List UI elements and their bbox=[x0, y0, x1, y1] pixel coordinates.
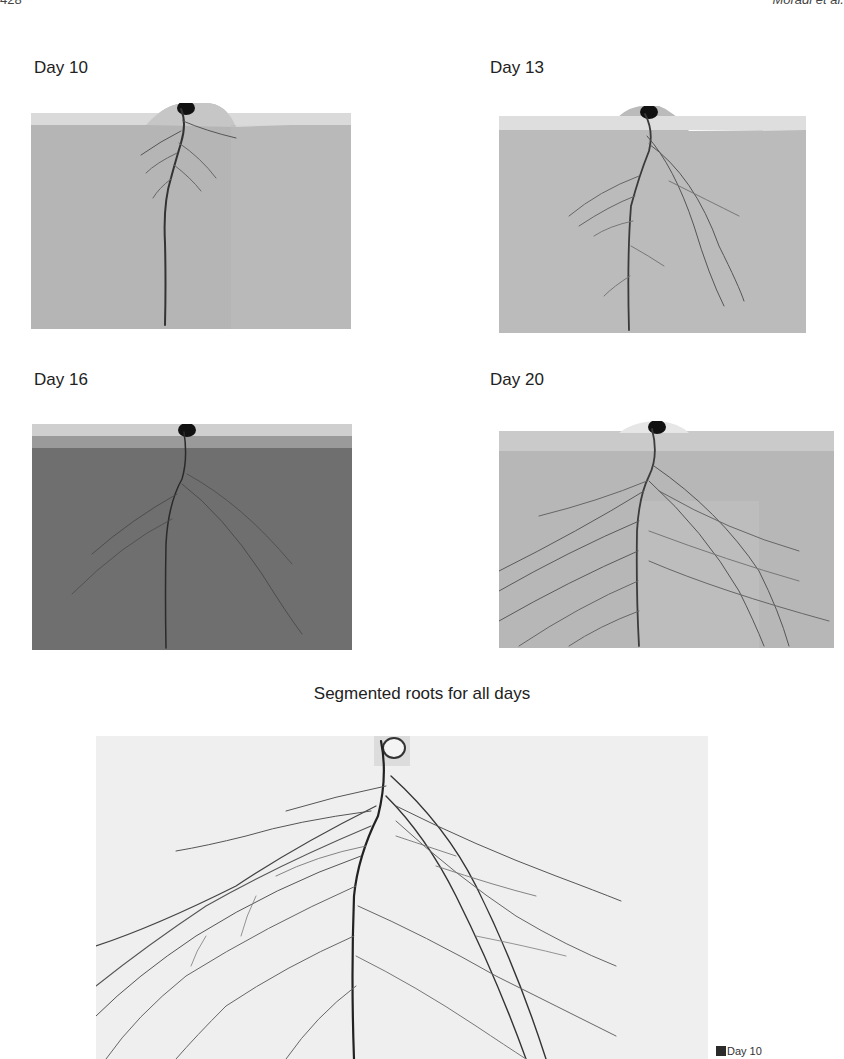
root-image-day-20 bbox=[499, 421, 834, 648]
legend: Day 10 bbox=[716, 1045, 762, 1057]
legend-label-day-10: Day 10 bbox=[727, 1045, 762, 1057]
composite-caption: Segmented roots for all days bbox=[0, 684, 844, 704]
root-image-day-13 bbox=[499, 106, 806, 333]
running-head-left: 428 bbox=[0, 0, 22, 7]
root-image-day-16 bbox=[32, 424, 352, 650]
root-image-day-10 bbox=[31, 103, 351, 329]
segmented-roots-composite bbox=[96, 736, 708, 1059]
legend-swatch-day-10 bbox=[716, 1046, 726, 1056]
panel-label-day-16: Day 16 bbox=[34, 370, 88, 390]
panel-label-day-10: Day 10 bbox=[34, 58, 88, 78]
running-head-right: Moradi et al. bbox=[772, 0, 844, 7]
panel-label-day-20: Day 20 bbox=[490, 370, 544, 390]
panel-label-day-13: Day 13 bbox=[490, 58, 544, 78]
